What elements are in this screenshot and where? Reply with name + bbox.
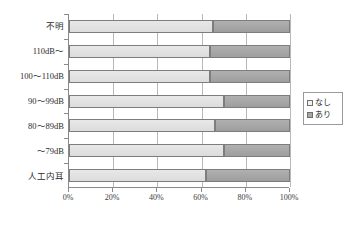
bar-row <box>69 119 289 132</box>
bar-segment-ari[interactable] <box>215 119 290 132</box>
bar-segment-ari[interactable] <box>206 169 290 182</box>
category-label: 不明 <box>46 21 64 31</box>
bar-segment-nashi[interactable] <box>69 119 215 132</box>
legend-item-ari[interactable]: あり <box>307 109 339 120</box>
x-tick-mark <box>68 188 69 192</box>
bar-segment-nashi[interactable] <box>69 144 224 157</box>
x-tick-label: 80% <box>225 193 265 203</box>
bar-segment-ari[interactable] <box>224 144 290 157</box>
bar-segment-ari[interactable] <box>210 70 290 83</box>
x-tick-mark <box>289 188 290 192</box>
bar-row <box>69 20 289 33</box>
category-label: 110dB～ <box>33 46 64 56</box>
x-tick-mark <box>112 188 113 192</box>
bar-segment-ari[interactable] <box>213 20 290 33</box>
bar-row <box>69 70 289 83</box>
x-tick-label: 40% <box>136 193 176 203</box>
legend-swatch-nashi-icon <box>307 100 313 106</box>
x-tick-label: 60% <box>181 193 221 203</box>
bar-row <box>69 169 289 182</box>
bar-segment-nashi[interactable] <box>69 45 210 58</box>
stacked-bar-chart: 不明110dB～100～110dB90～99dB80～89dB～79dB人工内耳… <box>0 0 356 226</box>
bar-segment-nashi[interactable] <box>69 169 206 182</box>
gridline <box>290 14 291 187</box>
category-label: 人工内耳 <box>28 171 64 181</box>
bar-row <box>69 45 289 58</box>
x-tick-mark <box>156 188 157 192</box>
x-tick-mark <box>201 188 202 192</box>
legend: なし あり <box>303 92 343 125</box>
x-tick-label: 100% <box>269 193 309 203</box>
bar-segment-nashi[interactable] <box>69 95 224 108</box>
bar-segment-ari[interactable] <box>224 95 290 108</box>
category-label: ～79dB <box>37 146 64 156</box>
legend-label-nashi: なし <box>315 98 331 107</box>
legend-swatch-ari-icon <box>307 112 313 118</box>
bar-segment-nashi[interactable] <box>69 20 213 33</box>
x-tick-mark <box>245 188 246 192</box>
bar-row <box>69 144 289 157</box>
x-tick-label: 20% <box>92 193 132 203</box>
x-tick-label: 0% <box>48 193 88 203</box>
bar-row <box>69 95 289 108</box>
legend-item-nashi[interactable]: なし <box>307 97 339 108</box>
category-label: 100～110dB <box>20 71 64 81</box>
plot-area <box>68 14 289 188</box>
bar-segment-nashi[interactable] <box>69 70 210 83</box>
bar-segment-ari[interactable] <box>210 45 290 58</box>
legend-label-ari: あり <box>315 110 331 119</box>
category-label: 80～89dB <box>28 121 64 131</box>
category-label: 90～99dB <box>28 96 64 106</box>
